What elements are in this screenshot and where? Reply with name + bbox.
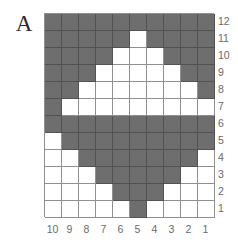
grid-cell xyxy=(130,48,147,65)
grid-cell xyxy=(181,133,198,150)
grid-cell xyxy=(113,184,130,201)
grid-cell xyxy=(147,133,164,150)
row-axis-labels: 121110987654321 xyxy=(216,13,238,217)
grid-cell xyxy=(164,31,181,48)
row-axis-tick: 1 xyxy=(216,200,238,217)
grid-cell xyxy=(62,82,79,99)
grid-cell xyxy=(96,150,113,167)
grid-cell xyxy=(45,82,62,99)
column-axis-tick: 4 xyxy=(146,220,163,238)
grid-cell xyxy=(181,65,198,82)
grid-cell xyxy=(147,201,164,218)
grid-cell xyxy=(164,201,181,218)
grid-cell xyxy=(113,65,130,82)
grid-cell xyxy=(198,14,215,31)
grid-cell xyxy=(62,184,79,201)
row-axis-tick: 9 xyxy=(216,64,238,81)
grid-cell xyxy=(198,82,215,99)
grid-cell xyxy=(164,99,181,116)
grid-cell xyxy=(198,65,215,82)
grid-cell xyxy=(147,14,164,31)
grid-cell xyxy=(79,31,96,48)
column-axis-tick: 3 xyxy=(163,220,180,238)
grid-cell xyxy=(96,65,113,82)
grid-cell xyxy=(181,99,198,116)
column-axis-tick: 2 xyxy=(180,220,197,238)
grid-cell xyxy=(147,65,164,82)
grid-cell xyxy=(198,31,215,48)
grid-cell xyxy=(62,116,79,133)
grid-cell xyxy=(45,167,62,184)
grid-cell xyxy=(45,65,62,82)
grid-cell xyxy=(181,116,198,133)
grid-cell xyxy=(130,167,147,184)
grid-cell xyxy=(181,48,198,65)
grid-cell xyxy=(113,31,130,48)
grid-cell xyxy=(62,133,79,150)
grid-cell xyxy=(198,201,215,218)
grid-cell xyxy=(181,167,198,184)
grid-cell xyxy=(181,82,198,99)
grid-cell xyxy=(164,65,181,82)
grid-cell xyxy=(164,133,181,150)
grid-cell xyxy=(198,133,215,150)
grid-container xyxy=(44,13,214,217)
row-axis-tick: 10 xyxy=(216,47,238,64)
grid-cell xyxy=(62,48,79,65)
grid-cell xyxy=(113,116,130,133)
grid-cell xyxy=(164,150,181,167)
grid-cell xyxy=(130,31,147,48)
grid-cell xyxy=(164,14,181,31)
grid-cell xyxy=(147,31,164,48)
grid-cell xyxy=(113,14,130,31)
cell-grid xyxy=(44,13,214,217)
grid-cell xyxy=(45,14,62,31)
grid-cell xyxy=(79,167,96,184)
grid-cell xyxy=(113,133,130,150)
grid-cell xyxy=(45,99,62,116)
row-axis-tick: 7 xyxy=(216,98,238,115)
column-axis-tick: 8 xyxy=(78,220,95,238)
grid-cell xyxy=(130,14,147,31)
row-axis-tick: 12 xyxy=(216,13,238,30)
grid-cell xyxy=(130,150,147,167)
grid-cell xyxy=(79,150,96,167)
grid-cell xyxy=(45,150,62,167)
grid-cell xyxy=(130,99,147,116)
row-axis-tick: 5 xyxy=(216,132,238,149)
grid-cell xyxy=(164,48,181,65)
row-axis-tick: 8 xyxy=(216,81,238,98)
grid-cell xyxy=(198,99,215,116)
row-axis-tick: 11 xyxy=(216,30,238,47)
grid-cell xyxy=(113,201,130,218)
grid-cell xyxy=(147,167,164,184)
grid-cell xyxy=(79,48,96,65)
grid-cell xyxy=(79,133,96,150)
grid-cell xyxy=(96,116,113,133)
grid-cell xyxy=(130,82,147,99)
grid-cell xyxy=(96,48,113,65)
panel-label: A xyxy=(8,8,40,40)
grid-cell xyxy=(96,201,113,218)
grid-cell xyxy=(96,184,113,201)
grid-cell xyxy=(79,65,96,82)
grid-cell xyxy=(164,184,181,201)
grid-cell xyxy=(113,150,130,167)
grid-cell xyxy=(198,184,215,201)
grid-cell xyxy=(96,31,113,48)
column-axis-tick: 1 xyxy=(197,220,214,238)
grid-cell xyxy=(62,31,79,48)
grid-cell xyxy=(130,65,147,82)
grid-cell xyxy=(79,82,96,99)
grid-cell xyxy=(147,184,164,201)
row-axis-tick: 6 xyxy=(216,115,238,132)
grid-cell xyxy=(198,167,215,184)
grid-cell xyxy=(130,116,147,133)
grid-cell xyxy=(62,167,79,184)
grid-cell xyxy=(45,48,62,65)
grid-cell xyxy=(198,48,215,65)
grid-cell xyxy=(96,133,113,150)
grid-cell xyxy=(45,201,62,218)
grid-cell xyxy=(198,150,215,167)
grid-cell xyxy=(147,82,164,99)
